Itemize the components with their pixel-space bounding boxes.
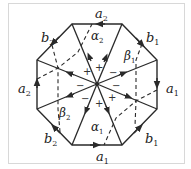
octagon-diagram: a2 b1 a1 b1 a1 b2 a2 b2 α2 β1 β2 α1 + + … [0,0,191,169]
svg-text:a1: a1 [96,149,109,166]
svg-text:+: + [95,62,103,73]
svg-text:b1: b1 [145,131,158,148]
svg-text:a2: a2 [18,81,31,98]
svg-text:α2: α2 [91,29,104,45]
svg-text:α1: α1 [91,120,104,136]
svg-text:−: − [81,93,89,104]
svg-text:a2: a2 [95,6,108,23]
svg-text:+: + [108,92,116,103]
svg-text:−: − [109,67,117,78]
svg-text:b2: b2 [44,131,57,148]
svg-text:−: − [112,80,120,91]
beta1-curve [135,44,142,126]
svg-text:a1: a1 [166,81,179,98]
svg-text:β1: β1 [123,49,135,65]
svg-text:+: + [95,98,103,109]
svg-text:b2: b2 [41,30,54,47]
center-vertex [95,82,99,86]
svg-text:b1: b1 [146,30,159,47]
svg-text:−: − [76,80,84,91]
svg-text:+: + [83,66,91,77]
svg-text:β2: β2 [58,106,70,122]
